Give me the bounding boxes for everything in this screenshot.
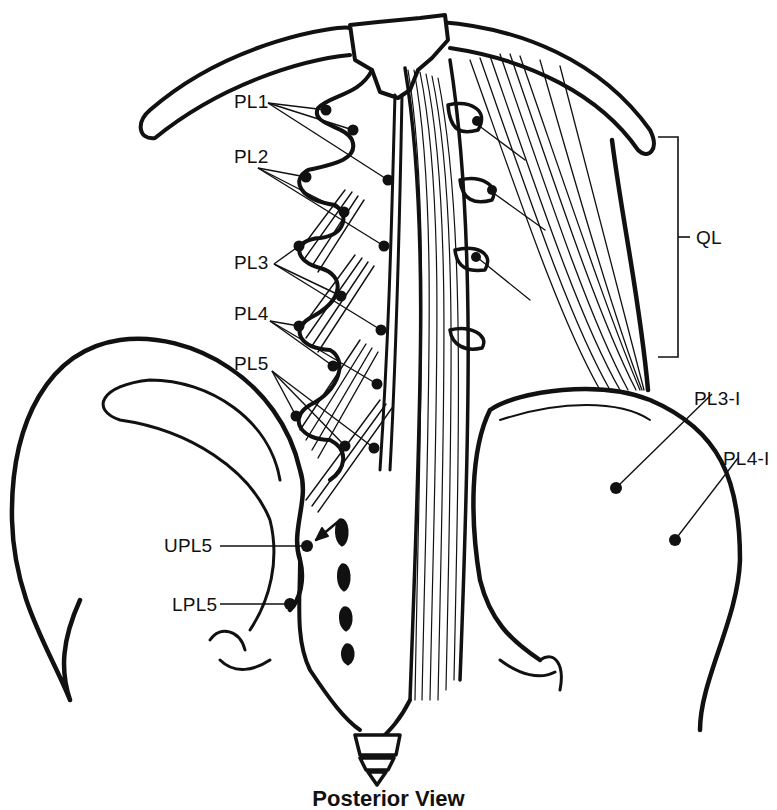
lower-pelvis-left bbox=[210, 631, 270, 669]
label-pl2: PL2 bbox=[234, 147, 268, 166]
ql-bracket bbox=[658, 137, 690, 357]
label-upl5: UPL5 bbox=[164, 536, 212, 555]
label-pl4-i: PL4-I bbox=[723, 449, 769, 468]
spinous-column bbox=[380, 95, 402, 470]
quadratus-lumborum-fibers bbox=[470, 54, 644, 390]
label-pl1: PL1 bbox=[234, 92, 268, 111]
right-ilium-inner bbox=[500, 405, 650, 420]
sacral-foramina bbox=[336, 520, 353, 664]
lower-pelvis-right bbox=[500, 657, 561, 690]
label-pl4: PL4 bbox=[234, 304, 268, 323]
sacrum bbox=[299, 560, 410, 740]
label-ql: QL bbox=[696, 228, 722, 247]
right-ilium bbox=[473, 389, 740, 730]
quadratus-lumborum-border bbox=[612, 140, 648, 390]
left-ilium bbox=[12, 339, 303, 700]
left-ilium-inner bbox=[103, 380, 280, 630]
label-lpl5: LPL5 bbox=[172, 595, 217, 614]
caption: Posterior View bbox=[0, 786, 777, 810]
coccyx bbox=[355, 735, 400, 785]
label-pl3: PL3 bbox=[234, 253, 268, 272]
label-pl5: PL5 bbox=[234, 354, 268, 373]
label-pl3-i: PL3-I bbox=[694, 389, 740, 408]
